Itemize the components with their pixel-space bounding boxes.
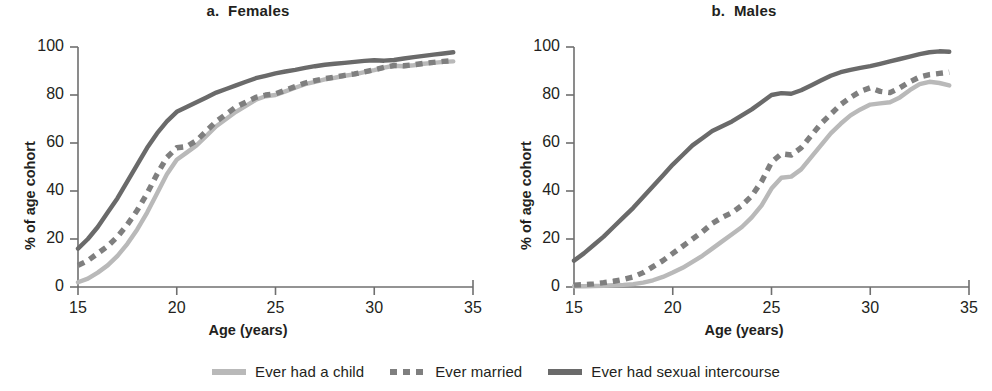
y-tick-label: 0 bbox=[24, 277, 64, 295]
panel-males: b. Males % of age cohort Age (years) 020… bbox=[496, 0, 992, 348]
x-tick-label: 15 bbox=[58, 299, 98, 317]
y-tick-label: 60 bbox=[520, 133, 560, 151]
legend-item[interactable]: Ever had a child bbox=[212, 363, 364, 380]
series-line bbox=[574, 51, 949, 260]
series-line bbox=[78, 52, 453, 248]
x-tick-label: 15 bbox=[554, 299, 594, 317]
y-tick-label: 100 bbox=[24, 37, 64, 55]
y-tick-label: 20 bbox=[24, 229, 64, 247]
legend-swatch-solid-icon bbox=[548, 369, 582, 375]
legend-item[interactable]: Ever married bbox=[390, 363, 522, 380]
x-tick-label: 20 bbox=[157, 299, 197, 317]
figure-root: a. Females % of age cohort Age (years) 0… bbox=[0, 0, 992, 391]
y-tick-label: 40 bbox=[24, 181, 64, 199]
x-tick-label: 25 bbox=[256, 299, 296, 317]
legend-label: Ever had a child bbox=[255, 363, 364, 380]
y-tick-label: 60 bbox=[24, 133, 64, 151]
y-tick-label: 40 bbox=[520, 181, 560, 199]
y-tick-label: 80 bbox=[520, 85, 560, 103]
legend-label: Ever had sexual intercourse bbox=[591, 363, 780, 380]
plot-females bbox=[0, 0, 496, 348]
panels-container: a. Females % of age cohort Age (years) 0… bbox=[0, 0, 992, 348]
x-tick-label: 35 bbox=[949, 299, 989, 317]
panel-females: a. Females % of age cohort Age (years) 0… bbox=[0, 0, 496, 348]
x-tick-label: 25 bbox=[752, 299, 792, 317]
x-tick-label: 35 bbox=[453, 299, 493, 317]
x-tick-label: 20 bbox=[653, 299, 693, 317]
plot-males bbox=[496, 0, 992, 348]
legend-swatch-solid-icon bbox=[212, 369, 246, 375]
legend-label: Ever married bbox=[435, 363, 522, 380]
y-tick-label: 100 bbox=[520, 37, 560, 55]
y-tick-label: 0 bbox=[520, 277, 560, 295]
y-tick-label: 20 bbox=[520, 229, 560, 247]
x-tick-label: 30 bbox=[354, 299, 394, 317]
chart-legend: Ever had a childEver marriedEver had sex… bbox=[0, 352, 992, 391]
legend-swatch-dashed-icon bbox=[390, 369, 426, 375]
legend-item[interactable]: Ever had sexual intercourse bbox=[548, 363, 780, 380]
x-tick-label: 30 bbox=[850, 299, 890, 317]
series-line bbox=[574, 82, 949, 286]
y-tick-label: 80 bbox=[24, 85, 64, 103]
